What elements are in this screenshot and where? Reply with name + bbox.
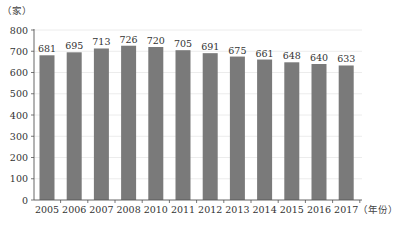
x-tick-label: 2016 [307, 204, 331, 215]
value-label: 713 [92, 36, 110, 47]
y-tick-label: 200 [10, 152, 28, 163]
bar-2005 [40, 55, 55, 200]
y-tick-label: 100 [10, 173, 28, 184]
bar-2007 [94, 48, 109, 200]
x-tick-label: 2015 [280, 204, 304, 215]
y-tick-label: 800 [10, 25, 28, 36]
bar-2016 [312, 64, 327, 200]
x-tick-label: 2014 [253, 204, 277, 215]
bar-2011 [176, 50, 191, 200]
value-label: 661 [256, 48, 274, 59]
x-tick-label: 2017 [334, 204, 358, 215]
bar-2010 [148, 47, 163, 200]
bar-2008 [121, 46, 136, 200]
y-tick-label: 300 [10, 131, 28, 142]
y-axis-unit-label: （家） [2, 5, 32, 16]
bars: 681695713726720705691675661648640633 [38, 34, 355, 200]
value-label: 695 [65, 40, 83, 51]
bar-2014 [257, 60, 272, 200]
value-label: 675 [228, 45, 246, 56]
bar-chart: 681695713726720705691675661648640633 010… [0, 0, 403, 226]
value-label: 633 [337, 53, 355, 64]
x-tick-label: 2005 [35, 204, 59, 215]
x-tick-label: 2007 [89, 204, 113, 215]
y-tick-label: 500 [10, 88, 28, 99]
value-label: 681 [38, 43, 56, 54]
value-label: 691 [201, 41, 219, 52]
x-axis-unit-label: （年份） [358, 204, 398, 215]
x-tick-label: 2011 [171, 204, 195, 215]
x-tick-label: 2012 [198, 204, 222, 215]
value-label: 640 [310, 52, 328, 63]
value-label: 726 [120, 34, 138, 45]
y-tick-label: 700 [10, 46, 28, 57]
y-tick-label: 400 [10, 110, 28, 121]
value-label: 648 [283, 50, 301, 61]
value-label: 720 [147, 35, 165, 46]
bar-2006 [67, 52, 82, 200]
x-tick-label: 2010 [144, 204, 168, 215]
x-tick-label: 2013 [225, 204, 249, 215]
y-tick-label: 600 [10, 67, 28, 78]
bar-2015 [284, 62, 299, 200]
value-label: 705 [174, 38, 192, 49]
bar-2013 [230, 57, 245, 200]
y-tick-label: 0 [22, 195, 28, 206]
x-tick-label: 2008 [117, 204, 141, 215]
bar-2017 [339, 65, 354, 200]
bar-2012 [203, 53, 218, 200]
x-tick-label: 2006 [62, 204, 86, 215]
